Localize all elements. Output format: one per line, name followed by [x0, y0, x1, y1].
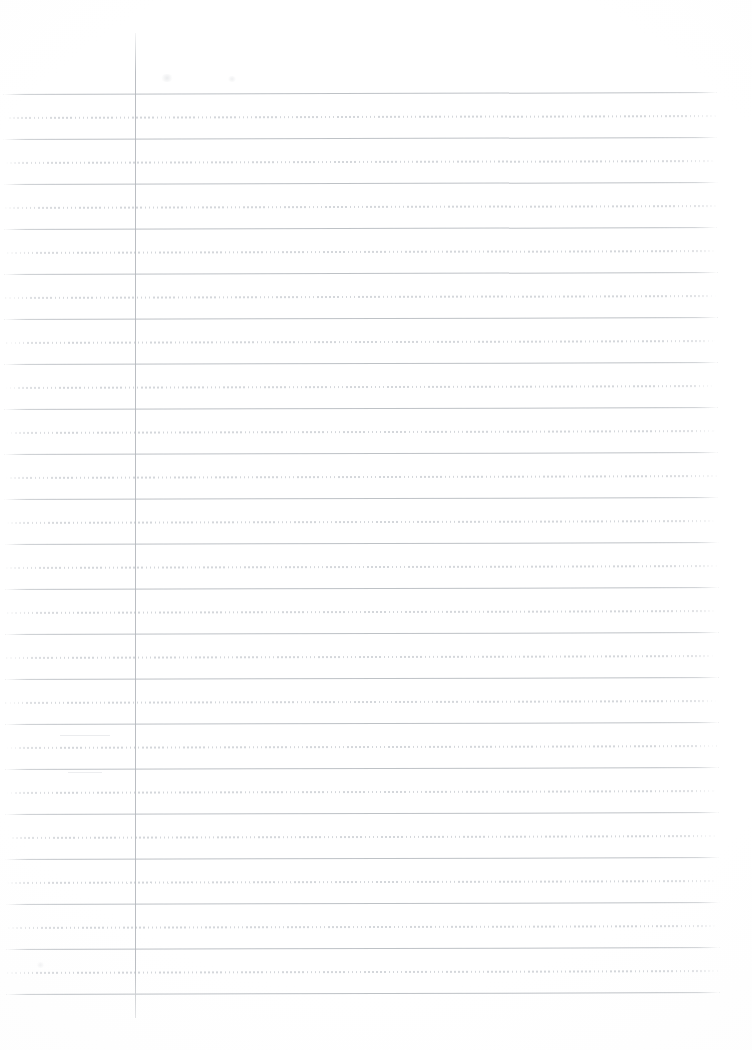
margin-rule-vertical [135, 33, 136, 1018]
notebook-page [0, 0, 752, 1050]
writing-area[interactable] [140, 90, 714, 995]
